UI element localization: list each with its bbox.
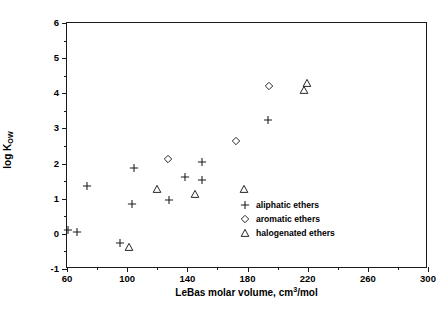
data-point (197, 176, 206, 185)
legend-item-label: halogenated ethers (256, 229, 335, 238)
triangle-marker-icon (234, 226, 256, 240)
y-axis-minor-tick (64, 41, 67, 42)
data-point (63, 226, 72, 235)
y-axis-title: log KOW (3, 131, 13, 168)
legend-item-plus[interactable]: aliphatic ethers (234, 198, 360, 212)
x-axis-tick-label: 220 (300, 274, 316, 284)
y-axis-minor-tick (64, 181, 67, 182)
y-axis-tick-label: 3 (54, 124, 59, 134)
diamond-marker-icon (234, 212, 256, 226)
y-axis-minor-tick (64, 251, 67, 252)
data-point (125, 242, 134, 251)
y-axis-minor-tick (64, 216, 67, 217)
y-axis-tick (62, 164, 67, 165)
x-axis-minor-tick (157, 267, 158, 270)
legend-item-diamond[interactable]: aromatic ethers (234, 212, 360, 226)
x-axis-title-superscript: 3 (293, 285, 297, 294)
data-point (129, 164, 138, 173)
x-axis-minor-tick (97, 267, 98, 270)
y-axis-tick-label: -1 (51, 264, 59, 274)
data-point (163, 155, 172, 164)
data-point (299, 86, 308, 95)
x-axis-tick (67, 267, 68, 272)
x-axis-tick (428, 267, 429, 272)
x-axis-tick-label: 300 (420, 274, 436, 284)
triangle-glyph (241, 229, 250, 238)
x-axis-tick-label: 100 (119, 274, 135, 284)
x-axis-tick-label: 180 (240, 274, 256, 284)
y-axis-tick-label: 4 (54, 89, 59, 99)
scatter-chart-figure: log KOW -1012345660100140180220260300 Le… (0, 0, 446, 312)
data-point (190, 190, 199, 199)
x-axis-tick (368, 267, 369, 272)
y-axis-minor-tick (64, 146, 67, 147)
y-axis-tick-label: 5 (54, 53, 59, 63)
data-point (232, 136, 241, 145)
data-point (127, 199, 136, 208)
data-point (302, 78, 311, 87)
data-point (82, 182, 91, 191)
data-point (153, 184, 162, 193)
data-point (181, 172, 190, 181)
y-axis-tick-label: 0 (54, 229, 59, 239)
y-axis-title-subscript: OW (6, 131, 15, 143)
legend-item-label: aromatic ethers (256, 215, 320, 224)
plus-marker-icon (234, 198, 256, 212)
data-point (263, 116, 272, 125)
x-axis-title: LeBas molar volume, cm3/mol (66, 288, 427, 298)
legend: aliphatic ethersaromatic ethershalogenat… (234, 198, 360, 246)
x-axis-tick (308, 267, 309, 272)
y-axis-tick (62, 128, 67, 129)
y-axis-title-text: log K (2, 144, 13, 169)
y-axis-tick (62, 93, 67, 94)
x-axis-tick (248, 267, 249, 272)
legend-item-triangle[interactable]: halogenated ethers (234, 226, 360, 240)
y-axis-minor-tick (64, 76, 67, 77)
y-axis-tick-label: 6 (54, 18, 59, 28)
diamond-glyph (241, 215, 250, 224)
x-axis-tick-label: 140 (179, 274, 195, 284)
data-point (240, 185, 249, 194)
x-axis-minor-tick (278, 267, 279, 270)
y-axis-tick (62, 23, 67, 24)
x-axis-minor-tick (338, 267, 339, 270)
plus-glyph (241, 201, 250, 210)
x-axis-title-suffix: /mol (297, 287, 318, 298)
x-axis-tick (127, 267, 128, 272)
y-axis-tick-label: 1 (54, 194, 59, 204)
x-axis-title-text: LeBas molar volume, cm (175, 287, 293, 298)
data-point (115, 238, 124, 247)
x-axis-tick (187, 267, 188, 272)
data-point (72, 228, 81, 237)
x-axis-minor-tick (398, 267, 399, 270)
legend-item-label: aliphatic ethers (256, 201, 319, 210)
y-axis-tick-label: 2 (54, 159, 59, 169)
x-axis-minor-tick (217, 267, 218, 270)
y-axis-minor-tick (64, 111, 67, 112)
data-point (198, 157, 207, 166)
y-axis-tick (62, 58, 67, 59)
y-axis-tick (62, 199, 67, 200)
data-point (164, 196, 173, 205)
x-axis-tick-label: 60 (62, 274, 73, 284)
data-point (264, 81, 273, 90)
x-axis-tick-label: 260 (360, 274, 376, 284)
